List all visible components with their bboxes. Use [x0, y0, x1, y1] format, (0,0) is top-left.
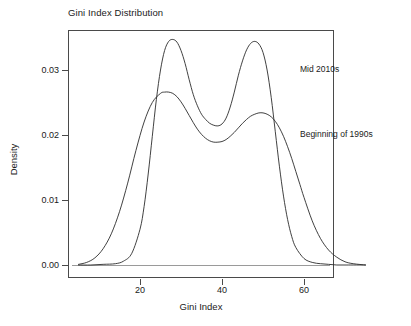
y-tick-label: 0.01	[41, 195, 59, 205]
y-tick-mark	[62, 135, 68, 136]
x-tick-label: 40	[217, 285, 227, 295]
annotation-beginning-1990s: Beginning of 1990s	[300, 129, 373, 139]
x-tick-label: 20	[135, 285, 145, 295]
x-axis-title: Gini Index	[180, 301, 223, 312]
x-tick-label: 60	[299, 285, 309, 295]
plot-area	[68, 30, 334, 278]
x-tick-mark	[304, 279, 305, 285]
y-tick-mark	[62, 70, 68, 71]
y-axis-title: Density	[8, 130, 19, 190]
y-tick-mark	[62, 265, 68, 266]
y-tick-label: 0.02	[41, 130, 59, 140]
annotation-mid-2010s: Mid 2010s	[300, 64, 339, 74]
y-tick-label: 0.00	[41, 260, 59, 270]
y-tick-label: 0.03	[41, 65, 59, 75]
x-tick-mark	[222, 279, 223, 285]
chart-figure: Gini Index Distribution 0.000.010.020.03…	[0, 0, 411, 326]
chart-title: Gini Index Distribution	[68, 7, 163, 18]
y-tick-mark	[62, 200, 68, 201]
x-tick-mark	[140, 279, 141, 285]
